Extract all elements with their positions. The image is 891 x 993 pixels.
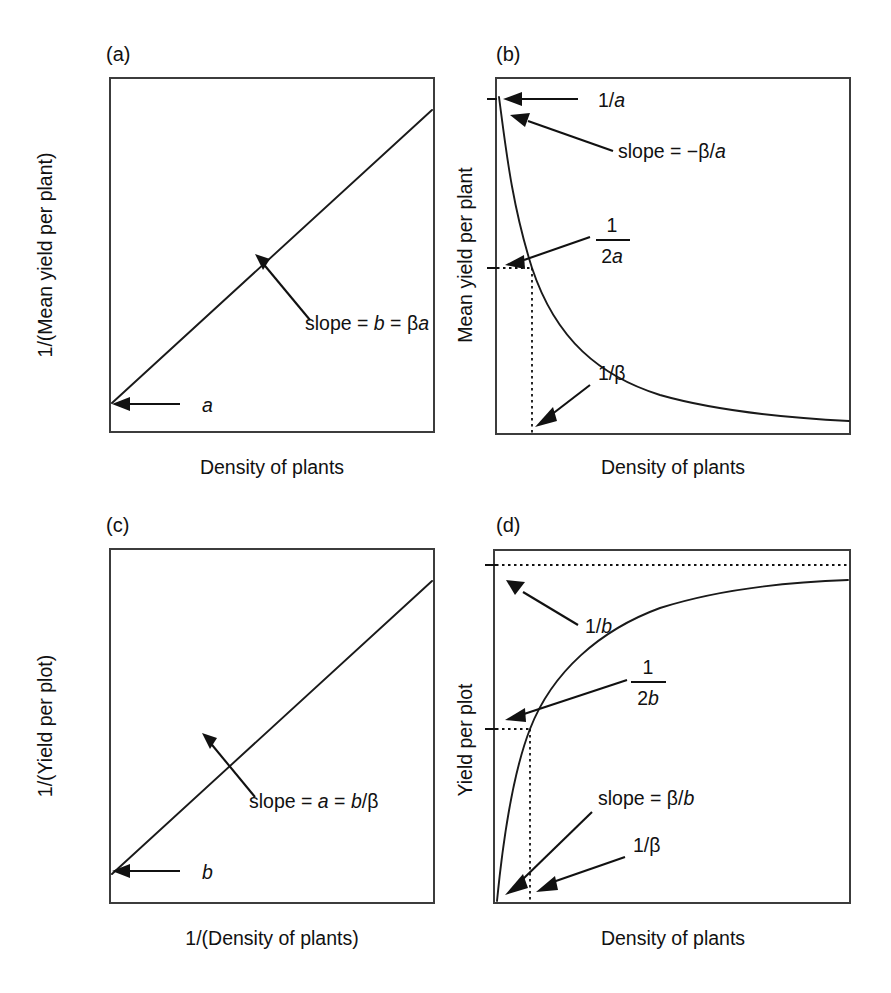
panel-d-xlabel: Density of plants	[601, 927, 745, 949]
panel-d-half-arrowhead	[505, 708, 526, 722]
panel-b-slope-label: slope = −β/a	[618, 140, 726, 162]
panel-a-intercept-label: a	[202, 394, 213, 416]
panel-d-half-annotation: 1 2b	[505, 656, 666, 722]
panel-a-ylabel: 1/(Mean yield per plant)	[34, 153, 56, 358]
panel-b: (b) 1/a slope = −β/a 1 2a	[454, 43, 850, 478]
panel-a-slope-label: slope = b = βa	[305, 312, 429, 334]
panel-c-intercept-label: b	[202, 861, 213, 883]
panel-d-half-numerator: 1	[643, 656, 654, 678]
panel-c-intercept-annotation: b	[112, 861, 213, 883]
panel-b-half-numerator: 1	[607, 214, 618, 236]
panel-d-density-annotation: 1/β	[536, 834, 660, 892]
panel-b-ylabel: Mean yield per plant	[454, 167, 476, 343]
panel-c-xlabel: 1/(Density of plants)	[185, 927, 358, 949]
panel-d-slope-annotation: slope = β/b	[505, 787, 694, 895]
panel-a-slope-leader	[261, 261, 310, 320]
panel-d-density-leader	[553, 857, 625, 882]
panel-b-axes-box	[496, 78, 850, 434]
panel-b-density-leader	[551, 385, 590, 415]
panel-a-xlabel: Density of plants	[200, 456, 344, 478]
panel-a-axes-box	[110, 78, 434, 432]
panel-d-half-denominator: 2b	[637, 687, 659, 709]
panel-b-intercept-label: 1/a	[598, 89, 625, 111]
panel-b-density-annotation: 1/β	[535, 362, 625, 427]
panel-c-axes-box	[110, 549, 434, 903]
panel-b-label: (b)	[496, 43, 520, 65]
panel-d-ylabel: Yield per plot	[454, 683, 476, 797]
panel-c: (c) slope = a = b/β b 1/(Density of plan…	[34, 514, 434, 949]
panel-d-label: (d)	[496, 514, 520, 536]
panel-b-slope-arrowhead	[510, 113, 530, 127]
panel-c-slope-annotation: slope = a = b/β	[202, 733, 378, 812]
panel-a: (a) slope = b = βa a Density of plants 1…	[34, 43, 434, 478]
figure-root: (a) slope = b = βa a Density of plants 1…	[0, 0, 891, 993]
panel-c-slope-label: slope = a = b/β	[249, 790, 378, 812]
panel-d-slope-label: slope = β/b	[598, 787, 694, 809]
panel-b-intercept-arrowhead	[503, 92, 522, 106]
panel-d-asymptote-annotation: 1/b	[506, 580, 612, 637]
panel-a-intercept-arrowhead	[112, 397, 130, 411]
panel-b-half-denominator: 2a	[601, 245, 623, 267]
panel-c-ylabel: 1/(Yield per plot)	[34, 655, 56, 797]
panel-c-label: (c)	[106, 514, 129, 536]
panel-a-line	[112, 110, 432, 403]
panel-d-half-leader	[524, 680, 627, 714]
panel-a-slope-annotation: slope = b = βa	[255, 254, 429, 334]
panel-d-asymptote-leader	[523, 592, 578, 625]
panel-a-label: (a)	[106, 43, 130, 65]
panel-d: (d) 1/b 1 2b slope	[454, 514, 850, 949]
panel-d-slope-leader	[522, 812, 592, 880]
panel-b-slope-leader	[528, 121, 613, 151]
panel-d-asymptote-label: 1/b	[585, 615, 612, 637]
panel-b-half-leader	[524, 237, 590, 260]
panel-c-line	[112, 581, 432, 874]
panel-a-intercept-annotation: a	[112, 394, 213, 416]
panel-b-density-arrowhead	[535, 407, 557, 427]
panel-b-xlabel: Density of plants	[601, 456, 745, 478]
panel-b-half-arrowhead	[505, 255, 525, 269]
four-panel-figure: (a) slope = b = βa a Density of plants 1…	[0, 0, 891, 993]
panel-d-asymptote-arrowhead	[506, 580, 525, 595]
panel-d-axes-box	[494, 550, 850, 903]
panel-d-density-arrowhead	[536, 876, 558, 892]
panel-b-density-label: 1/β	[598, 362, 625, 384]
panel-d-density-label: 1/β	[633, 834, 660, 856]
panel-b-intercept-annotation: 1/a	[503, 89, 625, 111]
panel-b-slope-annotation: slope = −β/a	[510, 113, 726, 162]
